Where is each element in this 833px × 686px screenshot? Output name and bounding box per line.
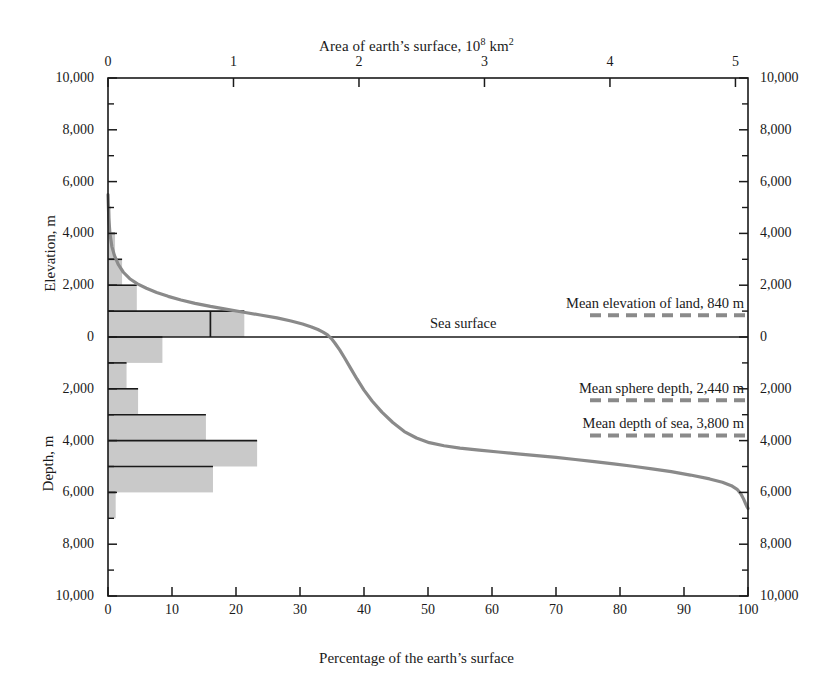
x-tick-label: 100 (738, 602, 759, 618)
y-tick-label-left: 2,000 (0, 381, 94, 397)
histogram-bar (108, 492, 116, 518)
y-tick-label-left: 10,000 (0, 70, 94, 86)
y-tick-label-left: 4,000 (0, 433, 94, 449)
x-tick-label: 0 (105, 602, 112, 618)
x2-tick-label: 2 (355, 54, 362, 70)
y-tick-label-right: 8,000 (760, 122, 792, 138)
y-tick-label-left: 0 (0, 329, 94, 345)
x2-tick-label: 4 (606, 54, 613, 70)
x2-tick-label: 3 (481, 54, 488, 70)
sea-surface-label: Sea surface (430, 315, 496, 332)
x-tick-label: 70 (549, 602, 563, 618)
y-tick-label-right: 2,000 (760, 381, 792, 397)
histogram-bar (108, 311, 244, 337)
histogram-bar (108, 337, 162, 363)
mean-depth-of-sea-label: Mean depth of sea, 3,800 m (300, 415, 744, 432)
y-tick-label-right: 0 (760, 329, 767, 345)
y-tick-label-right: 2,000 (760, 277, 792, 293)
y-tick-label-right: 8,000 (760, 536, 792, 552)
histogram-bar (108, 285, 137, 311)
mean-elevation-of-land-label: Mean elevation of land, 840 m (300, 295, 744, 312)
x-tick-label: 50 (421, 602, 435, 618)
y-tick-label-left: 6,000 (0, 174, 94, 190)
y-tick-label-right: 4,000 (760, 225, 792, 241)
histogram-bar (108, 259, 122, 285)
y-tick-label-left: 8,000 (0, 536, 94, 552)
y-tick-label-right: 10,000 (760, 588, 799, 604)
x2-tick-label: 1 (230, 54, 237, 70)
x-tick-label: 90 (677, 602, 691, 618)
x-tick-label: 20 (229, 602, 243, 618)
histogram-bar (108, 363, 127, 389)
y-tick-label-left: 4,000 (0, 225, 94, 241)
x-tick-label: 40 (357, 602, 371, 618)
hypsographic-curve-figure: Area of earth’s surface, 108 km2 Elevati… (0, 0, 833, 686)
x2-tick-label: 0 (105, 54, 112, 70)
y-tick-label-right: 6,000 (760, 174, 792, 190)
histogram-bar (108, 441, 257, 467)
x2-tick-label: 5 (732, 54, 739, 70)
y-tick-label-left: 8,000 (0, 122, 94, 138)
histogram-layer (108, 208, 748, 519)
mean-sphere-depth-label: Mean sphere depth, 2,440 m (300, 380, 744, 397)
histogram-bar (108, 415, 206, 441)
plot-area (0, 0, 833, 686)
x-tick-label: 30 (293, 602, 307, 618)
x-tick-label: 80 (613, 602, 627, 618)
x-tick-label: 10 (165, 602, 179, 618)
histogram-bar (108, 467, 213, 493)
y-tick-label-left: 2,000 (0, 277, 94, 293)
y-tick-label-right: 6,000 (760, 484, 792, 500)
y-tick-label-right: 4,000 (760, 433, 792, 449)
bottom-axis-title: Percentage of the earth’s surface (0, 650, 833, 667)
histogram-bar (108, 389, 138, 415)
x-tick-label: 60 (485, 602, 499, 618)
y-tick-label-left: 10,000 (0, 588, 94, 604)
y-tick-label-right: 10,000 (760, 70, 799, 86)
y-tick-label-left: 6,000 (0, 484, 94, 500)
